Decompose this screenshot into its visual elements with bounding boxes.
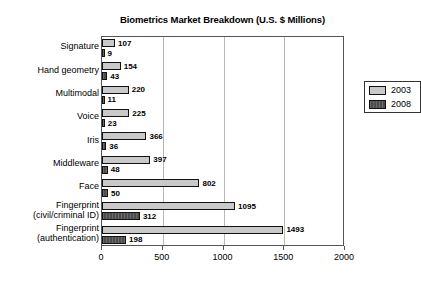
category-label-line: Iris	[0, 135, 99, 146]
bar-group: 39748	[102, 154, 343, 177]
bar-group: 1493198	[102, 224, 343, 247]
bar-value-2008: 48	[111, 165, 120, 174]
bar-value-2008: 50	[111, 189, 120, 198]
category-label-line: Face	[0, 181, 99, 192]
x-tick-label: 2000	[324, 252, 364, 263]
category-label-line: Fingerprint	[0, 223, 99, 234]
chart-title: Biometrics Market Breakdown (U.S. $ Mill…	[101, 14, 344, 25]
category-label: Voice	[0, 111, 99, 122]
bar-value-2008: 312	[143, 212, 156, 221]
x-tick-label: 0	[81, 252, 121, 263]
category-label-line: Voice	[0, 111, 99, 122]
bar-value-2008: 23	[108, 119, 117, 128]
bar-value-2008: 43	[110, 72, 119, 81]
bar-2003	[102, 39, 115, 47]
bar-group: 15443	[102, 60, 343, 83]
bar-value-2003: 220	[132, 85, 145, 94]
bar-group: 36636	[102, 130, 343, 153]
chart-legend: 2003 2008	[364, 81, 421, 113]
category-label-line: (authentication)	[0, 233, 99, 244]
category-label-line: (civil/criminal ID)	[0, 210, 99, 221]
category-label-line: Middleware	[0, 158, 99, 169]
legend-label-2003: 2003	[391, 85, 411, 96]
category-label-line: Hand geometry	[0, 65, 99, 76]
category-label: Fingerprint(authentication)	[0, 223, 99, 244]
legend-label-2008: 2008	[391, 99, 411, 110]
category-label-line: Signature	[0, 41, 99, 52]
category-label-line: Fingerprint	[0, 200, 99, 211]
bar-2008	[102, 119, 105, 127]
bar-value-2008: 11	[108, 95, 116, 104]
bar-value-2008: 198	[129, 235, 142, 244]
x-tick-0	[101, 246, 102, 250]
x-tick-1000	[223, 246, 224, 250]
x-tick-label: 500	[142, 252, 182, 263]
bar-2003	[102, 132, 146, 140]
category-label: Multimodal	[0, 88, 99, 99]
bar-value-2003: 1493	[286, 225, 304, 234]
bar-value-2003: 225	[132, 109, 145, 118]
category-label: Signature	[0, 41, 99, 52]
bar-2003	[102, 226, 283, 234]
bar-2003	[102, 62, 121, 70]
x-tick-label: 1500	[263, 252, 303, 263]
bar-2003	[102, 86, 129, 94]
bar-2003	[102, 202, 235, 210]
bar-value-2003: 802	[202, 179, 215, 188]
category-label: Hand geometry	[0, 65, 99, 76]
bar-2008	[102, 49, 105, 57]
y-axis-category-labels: SignatureHand geometryMultimodalVoiceIri…	[0, 36, 99, 246]
bar-2008	[102, 72, 107, 80]
x-tick-2000	[344, 246, 345, 250]
bar-2003	[102, 109, 129, 117]
bar-2008	[102, 96, 105, 104]
bar-group: 1079	[102, 37, 343, 60]
light-gray-swatch-icon	[369, 86, 386, 95]
bar-value-2003: 107	[118, 39, 131, 48]
bar-2008	[102, 236, 126, 244]
bar-2008	[102, 212, 140, 220]
bar-value-2003: 154	[124, 62, 137, 71]
bar-value-2008: 36	[109, 142, 118, 151]
bar-value-2003: 1095	[238, 202, 256, 211]
x-tick-label: 1000	[203, 252, 243, 263]
category-label: Iris	[0, 135, 99, 146]
bar-value-2008: 9	[108, 49, 112, 58]
bar-2008	[102, 189, 108, 197]
bar-2003	[102, 179, 199, 187]
category-label: Fingerprint(civil/criminal ID)	[0, 200, 99, 221]
category-label: Face	[0, 181, 99, 192]
bar-group: 80250	[102, 177, 343, 200]
plot-area: 1079154432201122523366363974880250109531…	[101, 36, 344, 246]
x-tick-1500	[283, 246, 284, 250]
bar-2008	[102, 166, 108, 174]
bar-group: 1095312	[102, 200, 343, 223]
category-label: Middleware	[0, 158, 99, 169]
bar-2003	[102, 156, 150, 164]
category-label-line: Multimodal	[0, 88, 99, 99]
dark-gray-swatch-icon	[369, 100, 386, 109]
bar-group: 22011	[102, 84, 343, 107]
bar-value-2003: 366	[149, 132, 162, 141]
bar-2008	[102, 142, 106, 150]
bar-value-2003: 397	[153, 155, 166, 164]
bar-group: 22523	[102, 107, 343, 130]
x-tick-500	[162, 246, 163, 250]
